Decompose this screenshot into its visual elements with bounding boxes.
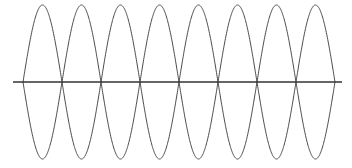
sine-wave-plot [0,0,352,168]
figure-canvas [0,0,352,168]
plot-background [0,0,352,168]
